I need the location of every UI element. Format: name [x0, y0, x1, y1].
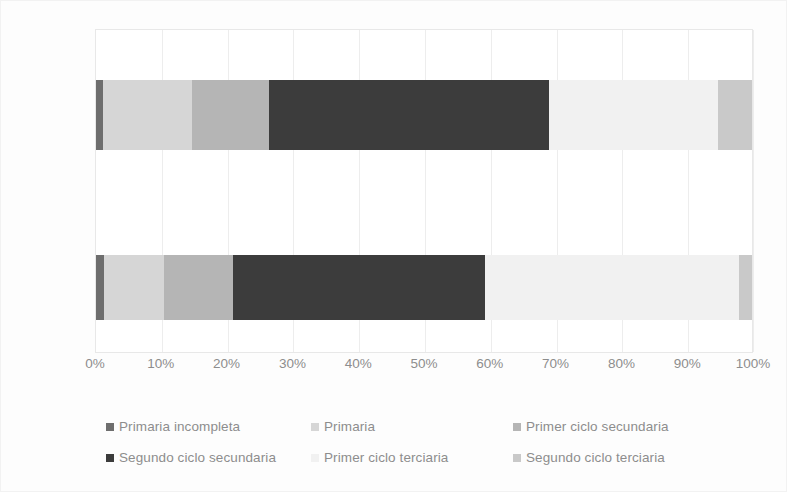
chart-legend: Primaria incompletaPrimariaPrimer ciclo …: [1, 419, 787, 481]
x-axis-tick-label: 80%: [608, 356, 635, 371]
legend-item[interactable]: Primer ciclo terciaria: [311, 450, 448, 465]
plot-area: [95, 29, 753, 353]
gridline: [753, 30, 754, 352]
legend-item[interactable]: Segundo ciclo terciaria: [513, 450, 665, 465]
legend-swatch-icon: [311, 454, 319, 462]
stacked-bar-chart: Hombre Mujer 0%10%20%30%40%50%60%70%80%9…: [0, 0, 787, 492]
legend-label: Segundo ciclo secundaria: [119, 450, 276, 465]
x-axis-tick-label: 60%: [476, 356, 503, 371]
x-axis-tick-label: 100%: [736, 356, 771, 371]
legend-swatch-icon: [106, 454, 114, 462]
bar-segment[interactable]: [549, 80, 718, 150]
x-axis-tick-label: 40%: [345, 356, 372, 371]
x-axis-tick-label: 90%: [674, 356, 701, 371]
legend-item[interactable]: Primaria incompleta: [106, 419, 240, 434]
legend-swatch-icon: [311, 423, 319, 431]
x-axis-tick-label: 70%: [542, 356, 569, 371]
x-axis-tick-label: 10%: [147, 356, 174, 371]
legend-swatch-icon: [513, 423, 521, 431]
bar-segment[interactable]: [192, 80, 269, 150]
legend-swatch-icon: [106, 423, 114, 431]
bar-hombre[interactable]: [96, 80, 752, 150]
bar-mujer[interactable]: [96, 255, 752, 320]
x-axis-tick-label: 50%: [410, 356, 437, 371]
legend-item[interactable]: Primer ciclo secundaria: [513, 419, 669, 434]
x-axis-tick-label: 0%: [85, 356, 105, 371]
legend-label: Segundo ciclo terciaria: [526, 450, 665, 465]
bar-segment[interactable]: [103, 80, 192, 150]
bar-segment[interactable]: [104, 255, 164, 320]
legend-label: Primer ciclo secundaria: [526, 419, 669, 434]
bar-segment[interactable]: [233, 255, 485, 320]
x-axis-tick-label: 30%: [279, 356, 306, 371]
legend-label: Primer ciclo terciaria: [324, 450, 448, 465]
legend-label: Primaria incompleta: [119, 419, 240, 434]
legend-item[interactable]: Segundo ciclo secundaria: [106, 450, 276, 465]
bar-segment[interactable]: [718, 80, 752, 150]
legend-label: Primaria: [324, 419, 375, 434]
bar-segment[interactable]: [485, 255, 739, 320]
legend-swatch-icon: [513, 454, 521, 462]
x-axis: 0%10%20%30%40%50%60%70%80%90%100%: [1, 356, 787, 382]
bar-segment[interactable]: [269, 80, 549, 150]
bar-segment[interactable]: [164, 255, 234, 320]
legend-item[interactable]: Primaria: [311, 419, 375, 434]
bar-segment[interactable]: [739, 255, 752, 320]
bar-segment[interactable]: [96, 255, 104, 320]
x-axis-tick-label: 20%: [213, 356, 240, 371]
